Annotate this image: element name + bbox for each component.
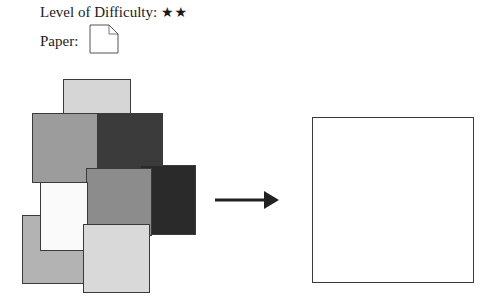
difficulty-label: Level of Difficulty: — [40, 4, 157, 20]
arrow-right-icon — [214, 190, 280, 210]
square-white — [40, 182, 88, 251]
single-square-paper — [312, 117, 474, 283]
difficulty-line: Level of Difficulty: ★★ — [40, 3, 188, 21]
square-bottom-light — [83, 224, 150, 293]
paper-line: Paper: — [40, 32, 78, 50]
paper-icon — [89, 24, 119, 54]
paper-label: Paper: — [40, 33, 78, 49]
difficulty-stars: ★★ — [161, 4, 188, 20]
